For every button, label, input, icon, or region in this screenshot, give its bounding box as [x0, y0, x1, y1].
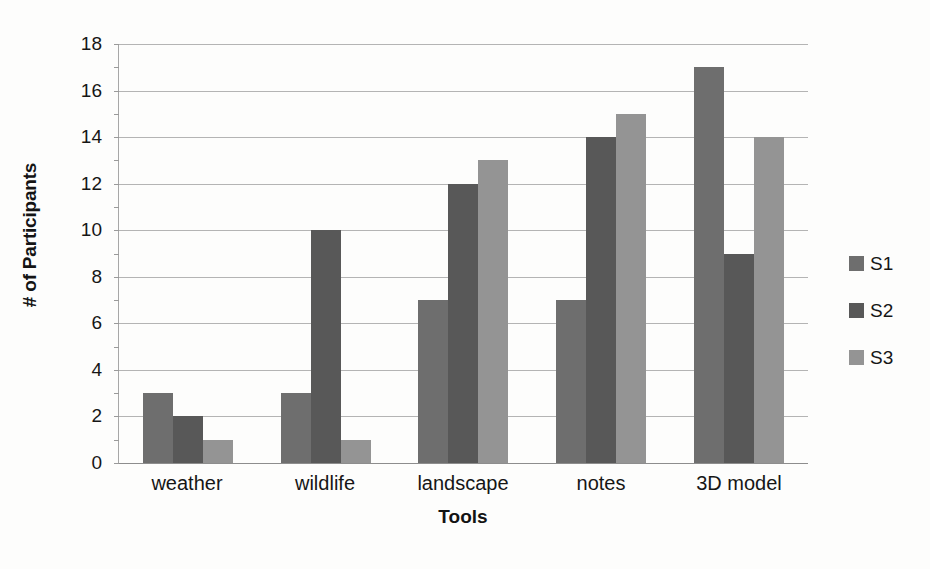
legend-label: S1	[870, 254, 893, 273]
x-tick-label: 3D model	[670, 472, 808, 506]
bar-s2-weather[interactable]	[173, 416, 203, 463]
bar-groups	[119, 44, 808, 463]
legend-swatch-icon	[849, 350, 864, 365]
plot-area	[118, 44, 808, 463]
y-axis-title-text: # of Participants	[19, 163, 41, 307]
bar-s1-wildlife[interactable]	[281, 393, 311, 463]
bar-s1-landscape[interactable]	[418, 300, 448, 463]
y-tick-label: 2	[91, 405, 102, 427]
x-tick-label: notes	[532, 472, 670, 506]
bar-s3-landscape[interactable]	[478, 160, 508, 463]
axis-tick-mark	[114, 463, 119, 464]
x-tick-label: weather	[118, 472, 256, 506]
y-tick-label: 14	[81, 126, 102, 148]
y-axis-title: # of Participants	[0, 0, 60, 470]
bar-s1-weather[interactable]	[143, 393, 173, 463]
legend-swatch-icon	[849, 256, 864, 271]
bar-s3-weather[interactable]	[203, 440, 233, 463]
y-tick-label: 8	[91, 266, 102, 288]
y-tick-label: 10	[81, 219, 102, 241]
x-tick-label: wildlife	[256, 472, 394, 506]
y-tick-label: 12	[81, 173, 102, 195]
bar-group	[119, 44, 257, 463]
legend-item-s3[interactable]: S3	[849, 334, 919, 381]
legend-item-s1[interactable]: S1	[849, 240, 919, 287]
bar-s2-wildlife[interactable]	[311, 230, 341, 463]
y-tick-label: 0	[91, 452, 102, 474]
y-tick-label: 18	[81, 33, 102, 55]
bar-s3-wildlife[interactable]	[341, 440, 371, 463]
legend: S1S2S3	[849, 240, 919, 381]
x-axis-tick-labels: weatherwildlifelandscapenotes3D model	[118, 472, 808, 506]
gridline	[119, 463, 808, 464]
bar-group	[670, 44, 808, 463]
x-tick-label: landscape	[394, 472, 532, 506]
bar-group	[395, 44, 533, 463]
legend-swatch-icon	[849, 303, 864, 318]
y-tick-label: 16	[81, 80, 102, 102]
bar-s2-notes[interactable]	[586, 137, 616, 463]
y-tick-label: 6	[91, 312, 102, 334]
bar-s3-notes[interactable]	[616, 114, 646, 463]
bar-s1-notes[interactable]	[556, 300, 586, 463]
legend-item-s2[interactable]: S2	[849, 287, 919, 334]
legend-label: S2	[870, 301, 893, 320]
legend-label: S3	[870, 348, 893, 367]
y-axis-tick-labels: 024681012141618	[60, 44, 112, 463]
bar-s3-3d-model[interactable]	[754, 137, 784, 463]
y-tick-label: 4	[91, 359, 102, 381]
bar-group	[532, 44, 670, 463]
bar-s2-3d-model[interactable]	[724, 254, 754, 464]
chart-screenshot: # of Participants 024681012141618 weathe…	[0, 0, 930, 569]
bar-s2-landscape[interactable]	[448, 184, 478, 463]
bar-s1-3d-model[interactable]	[694, 67, 724, 463]
bar-group	[257, 44, 395, 463]
x-axis-title: Tools	[118, 506, 808, 528]
